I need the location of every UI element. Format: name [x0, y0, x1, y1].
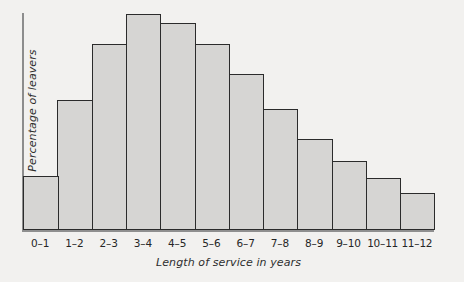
bar	[126, 14, 162, 230]
bar	[366, 178, 402, 230]
x-tick-label: 4–5	[160, 236, 194, 252]
plot-area	[22, 13, 434, 232]
bar	[160, 23, 196, 230]
bars-layer	[23, 13, 434, 231]
x-axis-title: Length of service in years	[23, 256, 434, 269]
bar	[297, 139, 333, 230]
x-tick-label: 11–12	[400, 236, 434, 252]
x-tick-label: 9–10	[331, 236, 365, 252]
bar	[57, 100, 93, 230]
histogram-figure: Percentage of leavers 0–11–22–33–44–55–6…	[0, 0, 464, 282]
x-axis-tick-labels: 0–11–22–33–44–55–66–77–88–99–1010–1111–1…	[23, 236, 434, 252]
x-tick-label: 1–2	[57, 236, 91, 252]
bar	[263, 109, 299, 230]
bar	[229, 74, 265, 230]
bar	[23, 176, 59, 230]
x-tick-label: 3–4	[126, 236, 160, 252]
bar	[400, 193, 436, 230]
bar	[194, 44, 230, 230]
x-tick-label: 0–1	[23, 236, 57, 252]
x-tick-label: 10–11	[366, 236, 400, 252]
bar	[92, 44, 128, 230]
x-tick-label: 8–9	[297, 236, 331, 252]
x-tick-label: 5–6	[194, 236, 228, 252]
x-tick-label: 2–3	[92, 236, 126, 252]
bar	[331, 161, 367, 230]
x-tick-label: 6–7	[229, 236, 263, 252]
x-tick-label: 7–8	[263, 236, 297, 252]
